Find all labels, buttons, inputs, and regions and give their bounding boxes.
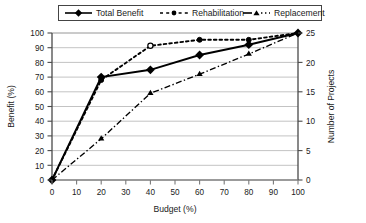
x-axis-title: Budget (%) [154,204,197,214]
x-tick-label: 10 [72,188,82,197]
y-tick-label: 60 [35,88,45,97]
x-tick-label: 0 [50,188,55,197]
y-tick-label: 20 [35,147,45,156]
y-tick-label: 10 [35,162,45,171]
y-tick-label: 40 [35,117,45,126]
chart-canvas: Total Benefit Rehabilitation Replacement [0,0,366,223]
chart-legend: Total Benefit Rehabilitation Replacement [59,6,326,21]
x-tick-label: 70 [220,188,230,197]
x-tick-label: 90 [269,188,279,197]
y-tick-label: 0 [39,176,44,185]
x-tick-label: 80 [244,188,254,197]
y2-tick-label: 10 [306,117,316,126]
y2-tick-label: 0 [306,176,311,185]
y-tick-label: 70 [35,73,45,82]
y2-tick-label: 15 [306,88,316,97]
x-tick-label: 60 [195,188,205,197]
chart-figure: Total Benefit Rehabilitation Replacement [0,0,366,223]
x-tick-label: 50 [170,188,180,197]
y-tick-label: 90 [35,44,45,53]
circle-marker [172,11,177,16]
y-tick-label: 50 [35,103,45,112]
legend-label-total-benefit: Total Benefit [96,8,144,18]
y-tick-label: 30 [35,132,45,141]
y-axis-right-title: Number of Projects [326,70,336,144]
x-tick-label: 30 [121,188,131,197]
y-tick-label: 100 [30,29,44,38]
x-tick-label: 100 [291,188,305,197]
circle-marker [197,37,202,42]
x-tick-label: 20 [97,188,107,197]
circle-marker [148,43,153,48]
legend-label-replacement: Replacement [274,8,325,18]
y2-tick-label: 20 [306,59,316,68]
x-tick-label: 40 [146,188,156,197]
legend-label-rehabilitation: Rehabilitation [192,8,244,18]
y2-tick-label: 5 [306,147,311,156]
y-axis-left-title: Benefit (%) [6,85,16,128]
y2-tick-label: 25 [306,29,316,38]
y-tick-label: 80 [35,59,45,68]
